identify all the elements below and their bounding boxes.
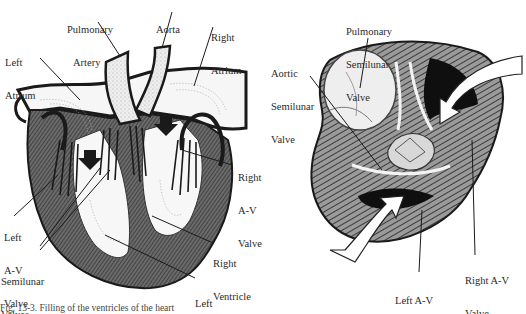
label-aorta: Aorta	[156, 2, 180, 46]
ventricle-muscle	[27, 110, 232, 288]
label-left-atrium: Left Atrium	[5, 35, 35, 112]
figure-caption: Fig. 13-3. Filling of the ventricles of …	[0, 303, 174, 313]
label-left-av-valve-bicuspid: Left A-V Valve (Bicuspid)	[395, 273, 439, 314]
label-pulmonary-semilunar-valve: Pulmonary Semilunar Valve	[346, 4, 392, 114]
label-pulmonary-artery: Pulmonary Artery	[67, 2, 113, 79]
label-right-atrium: Right Atrium	[211, 10, 241, 87]
label-right-av-valve-tricuspid: Right A-V Valve (Tricuspid)	[465, 253, 512, 314]
label-aortic-semilunar-valve: Aortic Semilunar Valve	[271, 46, 314, 156]
label-left-ventricle: Left Ventricle	[195, 276, 233, 314]
right-heart-valve-view	[310, 38, 522, 272]
